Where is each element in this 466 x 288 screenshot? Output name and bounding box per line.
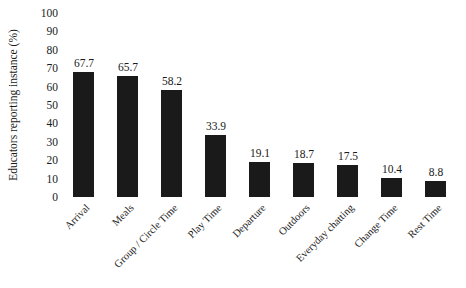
x-axis-label-slot: Change Time xyxy=(370,199,414,288)
bar-group: 67.7 xyxy=(62,13,106,197)
bar-value-label: 19.1 xyxy=(238,147,282,160)
y-axis-tick-labels: 1009080706050403020100 xyxy=(24,0,58,210)
bar-chart: Educators reporting instance (%) 1009080… xyxy=(0,0,466,288)
x-axis-label-slot: Play Time xyxy=(194,199,238,288)
bar-value-label: 18.7 xyxy=(282,148,326,161)
bar-group: 58.2 xyxy=(150,13,194,197)
x-axis-label-slot: Arrival xyxy=(62,199,106,288)
y-axis-tick-label: 40 xyxy=(24,117,58,129)
x-axis-tick-labels: ArrivalMealsGroup / Circle TimePlay Time… xyxy=(62,199,458,288)
plot-area: 67.765.758.233.919.118.717.510.48.8 xyxy=(62,13,458,197)
x-axis-tick-label-text: Outdoors xyxy=(276,202,312,238)
y-axis-tick-label: 100 xyxy=(24,7,58,19)
bar[interactable] xyxy=(73,72,94,197)
bar[interactable] xyxy=(117,76,138,197)
x-axis-tick-label-text: Arrival xyxy=(63,202,93,232)
y-axis-tick-label: 90 xyxy=(24,25,58,37)
y-axis-title: Educators reporting instance (%) xyxy=(4,5,22,205)
y-axis-tick-label: 60 xyxy=(24,81,58,93)
bar[interactable] xyxy=(161,90,182,197)
bar-value-label: 67.7 xyxy=(62,57,106,70)
y-axis-tick-label: 20 xyxy=(24,154,58,166)
bar-value-label: 17.5 xyxy=(326,150,370,163)
bar-group: 65.7 xyxy=(106,13,150,197)
x-axis-label-slot: Group / Circle Time xyxy=(150,199,194,288)
x-axis-tick-label-text: Meals xyxy=(110,202,137,229)
y-axis-tick-label: 80 xyxy=(24,44,58,56)
bar-group: 17.5 xyxy=(326,13,370,197)
y-axis-tick-label: 50 xyxy=(24,99,58,111)
y-axis-tick-label: 10 xyxy=(24,173,58,185)
bar-group: 19.1 xyxy=(238,13,282,197)
x-axis-label-slot: Departure xyxy=(238,199,282,288)
y-axis-tick-label: 30 xyxy=(24,136,58,148)
bar-group: 18.7 xyxy=(282,13,326,197)
x-axis-label-slot: Rest Time xyxy=(414,199,458,288)
bar-value-label: 33.9 xyxy=(194,120,238,133)
bar-value-label: 65.7 xyxy=(106,61,150,74)
bar-value-label: 58.2 xyxy=(150,75,194,88)
bar[interactable] xyxy=(337,165,358,197)
y-axis-tick-label: 70 xyxy=(24,62,58,74)
y-axis-tick-label: 0 xyxy=(24,191,58,203)
